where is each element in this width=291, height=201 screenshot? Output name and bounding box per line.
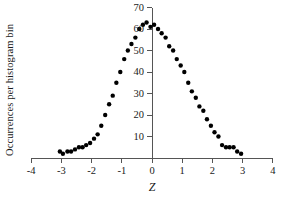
y-axis-tick-label: 50 (134, 45, 145, 56)
data-point (114, 81, 118, 85)
y-axis-tick-label: 60 (134, 24, 145, 35)
x-axis-tick-label: 2 (210, 166, 215, 177)
x-axis-tick-label: -3 (57, 166, 66, 177)
x-axis-tick-label: -4 (27, 166, 36, 177)
y-axis-tick-label: 20 (134, 110, 145, 121)
data-point (197, 104, 201, 108)
data-point (194, 96, 198, 100)
y-axis-tick-label: 40 (134, 67, 145, 78)
x-axis-tick-label: 1 (180, 166, 185, 177)
data-point (92, 136, 96, 140)
data-point (175, 57, 179, 61)
x-axis-tick-label: 3 (240, 166, 245, 177)
data-point (186, 81, 190, 85)
x-axis-title: Z (149, 180, 156, 195)
data-point (190, 89, 194, 93)
data-point (152, 23, 156, 27)
data-point (201, 109, 205, 113)
data-point (220, 143, 224, 147)
data-point (171, 48, 175, 52)
data-point (156, 27, 160, 31)
data-point (182, 70, 186, 74)
data-point (159, 31, 163, 35)
data-point (167, 44, 171, 48)
data-point (73, 147, 77, 151)
data-point (235, 149, 239, 153)
data-point (126, 48, 130, 52)
data-point (209, 124, 213, 128)
data-point (88, 141, 92, 145)
data-series (58, 20, 244, 156)
data-point (178, 63, 182, 67)
y-axis-tick-label: 10 (134, 131, 145, 142)
data-point (95, 132, 99, 136)
data-point (231, 145, 235, 149)
data-point (212, 130, 216, 134)
data-point (216, 134, 220, 138)
data-point (239, 152, 243, 156)
y-axis-tick-label: 30 (134, 88, 145, 99)
data-point (99, 124, 103, 128)
data-point (133, 35, 137, 39)
x-axis-tick-label: 0 (149, 166, 154, 177)
data-point (227, 145, 231, 149)
figure: Occurrences per histogram bin -4-3-2-101… (0, 0, 291, 201)
data-point (122, 57, 126, 61)
y-axis-tick-label: 70 (134, 2, 145, 13)
x-axis-tick-label: 4 (270, 166, 275, 177)
x-axis-tick-label: -1 (117, 166, 126, 177)
data-point (163, 35, 167, 39)
data-point (111, 93, 115, 97)
data-point (205, 117, 209, 121)
data-point (107, 102, 111, 106)
data-point (144, 20, 148, 24)
data-point (61, 152, 65, 156)
data-point (69, 149, 73, 153)
data-point (118, 70, 122, 74)
data-point (84, 143, 88, 147)
data-point (103, 113, 107, 117)
x-axis-tick-label: -2 (87, 166, 96, 177)
